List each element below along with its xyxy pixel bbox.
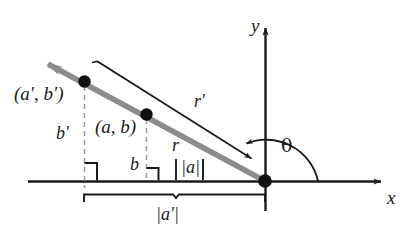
- segment-label-abs-a: |a|: [181, 158, 200, 176]
- segment-label-r: r: [172, 136, 179, 154]
- x-axis-label: x: [387, 188, 395, 207]
- point-inner-dot: [140, 108, 152, 120]
- point-outer-dot: [78, 75, 90, 87]
- point-label-outer: (a′, b′): [14, 84, 63, 103]
- geometry-figure: y x θ (a′, b′) (a, b) r′ r b′ b |a| |a′|: [0, 0, 413, 239]
- segment-label-r-prime: r′: [194, 92, 205, 110]
- abs-a-prime-brace: [84, 195, 265, 203]
- theta-label: θ: [281, 136, 292, 155]
- point-label-inner: (a, b): [95, 117, 136, 136]
- right-angle-inner: [147, 168, 159, 181]
- segment-label-b: b: [130, 155, 139, 173]
- y-axis-label: y: [251, 16, 259, 35]
- segment-label-b-prime: b′: [56, 124, 69, 142]
- brace-path: [84, 195, 265, 203]
- segment-label-abs-a-prime: |a′|: [156, 205, 179, 223]
- figure-canvas: [0, 0, 413, 239]
- point-origin-dot: [258, 174, 272, 188]
- right-angle-marker-inner: [147, 168, 159, 181]
- right-angle-marker-outer: [85, 163, 98, 181]
- right-angle-outer: [85, 163, 98, 181]
